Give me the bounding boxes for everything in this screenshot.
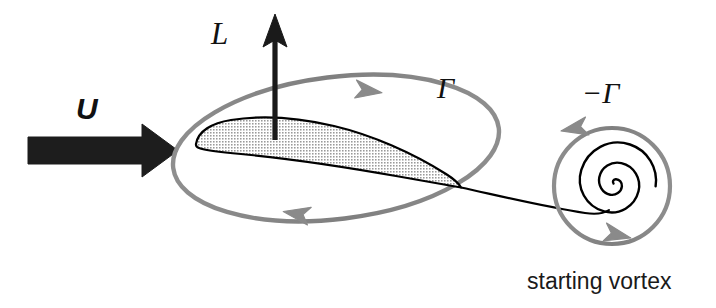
airfoil-section [196,118,461,188]
airfoil-circulation-diagram: U L Γ −Γ starting vortex [0,0,716,308]
starting-vortex-caption: starting vortex [527,270,671,293]
lift-label: L [211,18,228,49]
bound-circulation-arrowhead-top [354,80,383,102]
starting-vortex-spiral [580,142,656,212]
diagram-canvas [0,0,716,308]
freestream-velocity-label: U [76,94,98,124]
starting-circulation-label: −Γ [582,78,619,108]
airfoil-outline [196,118,461,188]
bound-circulation-label: Γ [437,73,454,103]
starting-vortex-spiral-path [580,142,656,212]
freestream-velocity-arrow [28,124,178,177]
starting-vortex-arrowhead-top [559,117,590,141]
freestream-arrow-shape [28,124,178,177]
